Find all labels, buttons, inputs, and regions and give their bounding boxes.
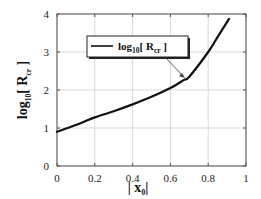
y-tick-labels: 01234 <box>44 8 50 172</box>
y-axis-label: log10[ Rcr ] <box>15 61 33 120</box>
y-tick-label: 2 <box>44 84 50 96</box>
x-tick-label: 0 <box>54 172 60 184</box>
y-tick-label: 0 <box>44 160 50 172</box>
legend-arrowhead-icon <box>179 73 185 78</box>
x-tick-label: 0.6 <box>164 172 178 184</box>
x-tick-labels: 00.20.40.60.81 <box>54 172 249 184</box>
legend: log10[ Rcr ] <box>87 36 190 59</box>
x-tick-label: 1 <box>243 172 249 184</box>
x-tick-label: 0.2 <box>88 172 102 184</box>
y-tick-label: 4 <box>44 8 50 20</box>
legend-arrow <box>166 58 183 76</box>
x-axis-label: | x0| <box>128 180 148 197</box>
y-tick-label: 1 <box>44 122 50 134</box>
chart: 00.20.40.60.81 01234 log10[ Rcr ] | x0| … <box>0 0 261 199</box>
x-tick-label: 0.8 <box>201 172 215 184</box>
y-tick-label: 3 <box>44 46 50 58</box>
